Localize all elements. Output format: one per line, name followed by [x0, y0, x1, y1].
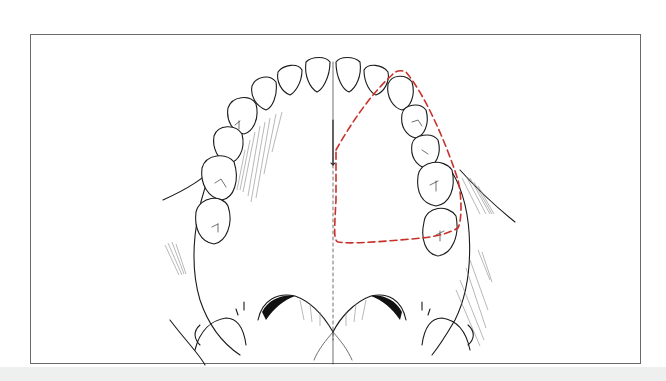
tooth-molar1-right: [418, 162, 454, 206]
tooth-central-incisor-right: [336, 58, 360, 93]
teeth-right: [336, 58, 457, 257]
tooth-canine-right: [388, 76, 414, 110]
tooth-molar2-left: [196, 198, 230, 244]
tooth-central-incisor-left: [306, 58, 330, 93]
palatal-midline: [331, 62, 335, 340]
pterygoid-processes: [195, 302, 473, 350]
maxilla-illustration: [0, 0, 666, 381]
soft-palate: [258, 295, 406, 364]
tooth-lateral-incisor-left: [278, 65, 302, 95]
teeth-left: [196, 58, 330, 245]
tooth-molar1-left: [202, 156, 237, 200]
